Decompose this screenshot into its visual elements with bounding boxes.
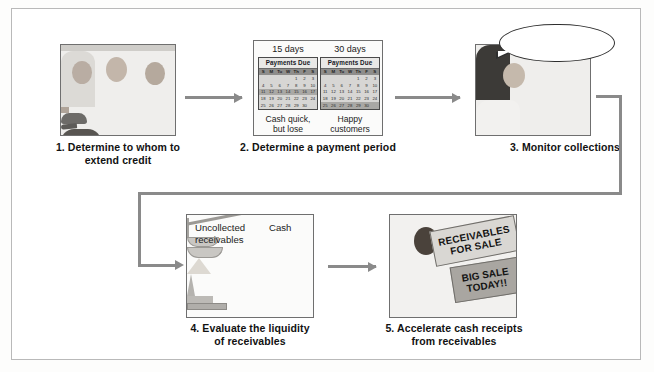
collections-person-body — [476, 100, 520, 136]
step-2-illustration-panel: 15 days Payments Due SMTuWThFS 123456789… — [253, 40, 383, 136]
connector-arrowhead-step4 — [175, 260, 184, 270]
calendar-30-days-day-cell: 30 — [362, 102, 370, 109]
scale-label-uncollected-line1: Uncollected — [195, 222, 245, 234]
person-suit-head — [106, 57, 127, 82]
calendar-30-days-day-cell: 25 — [321, 102, 329, 109]
calendar-15-days-weeks: 1234567891011121314151617181920212223242… — [259, 75, 317, 109]
speech-bubble-tail-fill — [498, 51, 511, 57]
connector-segment-into-step4 — [138, 264, 176, 267]
calendar-15-days-day-cell: 5 — [267, 82, 275, 89]
calendar-30-days-day-cell: 4 — [321, 82, 329, 89]
calendar-30-days-day-cell: 18 — [321, 95, 329, 102]
step-1-illustration-panel — [60, 44, 176, 136]
calendar-30-days-day-cell: 6 — [338, 82, 346, 89]
calendar-30-days-day-cell: 15 — [354, 89, 362, 96]
step-5-caption-line2: from receivables — [378, 335, 530, 348]
calendar-30-days-day-cell: 19 — [329, 95, 337, 102]
calendar-15-days-day-cell: 3 — [309, 75, 317, 82]
calendar-30-days-day-cell: 8 — [354, 82, 362, 89]
calendar-15-days-day-cell: 28 — [284, 102, 292, 109]
calendar-30-days-day-cell: 2 — [362, 75, 370, 82]
calendar-15-days-day-cell: 16 — [300, 89, 308, 96]
calendar-30-days-day-cell: 28 — [346, 102, 354, 109]
calendar-30-days-day-cell: 20 — [338, 95, 346, 102]
calendar-15-days-day-cell: 14 — [284, 89, 292, 96]
calendar-30-days-day-cell: 27 — [338, 102, 346, 109]
balance-scale-column — [187, 296, 213, 303]
calendar-15-days-day-cell — [309, 102, 317, 109]
calendar-30-days-day-cell — [338, 75, 346, 82]
calendar-15-days-day-cell: 8 — [292, 82, 300, 89]
step-4-caption: 4. Evaluate the liquidity of receivables — [175, 322, 325, 348]
calendar-30-days-day-cell: 23 — [362, 95, 370, 102]
receivables-pile — [187, 258, 211, 274]
balance-scale-pivot — [187, 274, 195, 296]
step-5-illustration-panel: RECEIVABLES FOR SALE BIG SALE TODAY!! — [389, 214, 517, 318]
arrow-step2-to-step3 — [395, 96, 460, 99]
calendar-15-days-day-cell: 17 — [309, 89, 317, 96]
calendar-15-days-day-cell: 20 — [276, 95, 284, 102]
calendar-15-days-day-cell: 10 — [309, 82, 317, 89]
scale-label-cash: Cash — [269, 222, 291, 234]
person-customer-head — [145, 62, 165, 85]
calendar-30-days-day-cell: 5 — [329, 82, 337, 89]
balance-scale-rod-right — [187, 228, 189, 237]
calendar-30-days-day-cell: 16 — [362, 89, 370, 96]
speech-bubble — [499, 24, 615, 62]
calendar-15-days-day-cell: 24 — [309, 95, 317, 102]
scale-label-uncollected: Uncollected receivables — [195, 222, 245, 245]
calendar-30-days-week-1: 45678910 — [321, 82, 379, 89]
collections-person-head — [503, 63, 525, 88]
step-1-caption-line1: 1. Determine to whom to — [18, 141, 218, 154]
calendar-30-days-week-0: 123 — [321, 75, 379, 82]
calendar-15-days-week-0: 123 — [259, 75, 317, 82]
step-4-illustration-panel: Uncollected receivables Cash — [186, 214, 314, 318]
calendar-30-days-day-cell: 10 — [371, 82, 379, 89]
calendar-15-days-day-cell: 11 — [259, 89, 267, 96]
person-suit-body — [61, 129, 101, 136]
calendar-15-days-note: Cash quick, but lose sales — [258, 114, 318, 136]
scale-label-uncollected-line2: receivables — [195, 234, 245, 246]
calendar-30-days-day-cell: 1 — [354, 75, 362, 82]
calendar-30-days-day-cell — [346, 75, 354, 82]
calendar-15-days-day-cell — [259, 75, 267, 82]
calendar-15-days-day-cell: 25 — [259, 102, 267, 109]
calendar-30-days-day-cell: 21 — [346, 95, 354, 102]
calendar-30-days-note-line2: but less cash — [320, 134, 380, 136]
calendar-15-days-day-cell: 26 — [267, 102, 275, 109]
calendar-15-days-week-3: 18192021222324 — [259, 95, 317, 102]
calendar-15-days-week-2: 11121314151617 — [259, 89, 317, 96]
calendar-15-days-day-cell: 29 — [292, 102, 300, 109]
calendar-30-days-day-cell: 24 — [371, 95, 379, 102]
calendar-30-days-day-cell: 22 — [354, 95, 362, 102]
calendar-30-days-day-cell: 29 — [354, 102, 362, 109]
calendar-15-days-day-cell: 7 — [284, 82, 292, 89]
calendar-30-days-day-cell: 11 — [321, 89, 329, 96]
calendar-30-days-week-4: 252627282930 — [321, 102, 379, 109]
calendar-15-days-day-cell: 21 — [284, 95, 292, 102]
calendar-15-days-week-1: 45678910 — [259, 82, 317, 89]
calendar-15-days-note-line1: Cash quick, — [258, 114, 318, 124]
calendar-15-days-group: 15 days Payments Due SMTuWThFS 123456789… — [258, 44, 318, 136]
calendar-30-days: Payments Due SMTuWThFS 12345678910111213… — [320, 57, 380, 110]
calendar-15-days-day-cell: 2 — [300, 75, 308, 82]
calendar-30-days-day-cell: 12 — [329, 89, 337, 96]
calendar-30-days-week-2: 11121314151617 — [321, 89, 379, 96]
calendar-15-days-day-cell — [276, 75, 284, 82]
calendar-15-days-day-cell: 6 — [276, 82, 284, 89]
arrow-step1-to-step2 — [185, 96, 242, 99]
calendar-30-days-day-cell — [371, 102, 379, 109]
calendar-15-days-day-cell: 15 — [292, 89, 300, 96]
calendar-30-days-day-cell: 9 — [362, 82, 370, 89]
step-1-caption: 1. Determine to whom to extend credit — [18, 141, 218, 167]
calendar-15-days-day-cell: 13 — [276, 89, 284, 96]
step-2-caption-line1: 2. Determine a payment period — [223, 141, 413, 154]
step-3-caption: 3. Monitor collections — [490, 141, 640, 154]
calendar-15-days-day-cell: 27 — [276, 102, 284, 109]
calendar-30-days-group: 30 days Payments Due SMTuWThFS 123456789… — [320, 44, 380, 136]
baseball-cap-icon — [61, 113, 87, 124]
calendar-30-days-day-cell — [329, 75, 337, 82]
calendar-15-days-week-4: 252627282930 — [259, 102, 317, 109]
calendar-15-days-label: 15 days — [258, 44, 318, 55]
balance-scale-base — [187, 303, 227, 310]
